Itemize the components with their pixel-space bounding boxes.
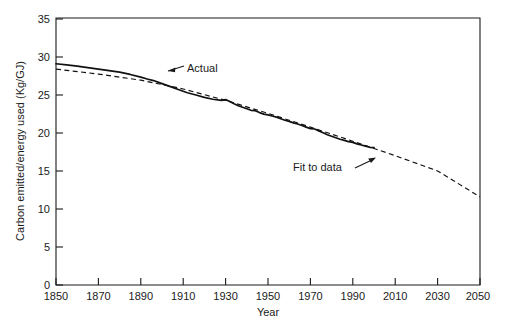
x-tick-label: 2030 <box>425 290 449 302</box>
y-tick-label: 35 <box>38 13 50 25</box>
x-tick-label: 1850 <box>44 290 68 302</box>
annotation-actual-label: Actual <box>187 62 218 74</box>
figure-root: 35 30 25 20 15 10 5 0 1850 1870 <box>0 0 507 327</box>
y-tick-label: 20 <box>38 127 50 139</box>
x-tick-label: 1930 <box>213 290 237 302</box>
x-tick-label: 1890 <box>129 290 153 302</box>
x-tick-label: 2050 <box>466 290 490 302</box>
y-tick-label: 10 <box>38 203 50 215</box>
x-tick-label: 1870 <box>86 290 110 302</box>
y-tick-label: 5 <box>44 241 50 253</box>
x-axis-tick-labels: 1850 1870 1890 1910 1930 1950 1970 1990 … <box>44 290 490 302</box>
y-axis-title: Carbon emitted/energy used (Kg/GJ) <box>14 61 26 241</box>
x-tick-label: 1970 <box>298 290 322 302</box>
series-fit-to-data <box>56 69 480 197</box>
x-tick-label: 1950 <box>256 290 280 302</box>
x-tick-label: 1910 <box>171 290 195 302</box>
actual-arrow-head <box>168 67 175 72</box>
x-axis-title: Year <box>257 306 280 318</box>
annotation-fit-to-data: Fit to data <box>293 158 376 174</box>
y-tick-label: 15 <box>38 165 50 177</box>
data-series-group <box>56 64 480 197</box>
x-tick-label: 2010 <box>383 290 407 302</box>
y-tick-label: 30 <box>38 51 50 63</box>
carbon-intensity-line-chart: 35 30 25 20 15 10 5 0 1850 1870 <box>0 0 507 327</box>
y-axis-tick-labels: 35 30 25 20 15 10 5 0 <box>38 13 50 291</box>
plot-frame <box>56 18 480 285</box>
annotation-actual: Actual <box>168 62 218 74</box>
series-actual <box>56 64 374 148</box>
y-tick-label: 25 <box>38 89 50 101</box>
x-tick-label: 1990 <box>341 290 365 302</box>
annotation-fit-label: Fit to data <box>293 161 343 173</box>
x-axis-ticks <box>56 278 480 285</box>
fit-arrow-head <box>368 158 376 164</box>
y-axis-ticks <box>56 19 63 285</box>
